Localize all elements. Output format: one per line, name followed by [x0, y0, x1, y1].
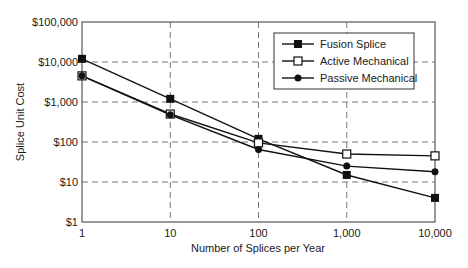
- x-tick-label: 10,000: [418, 227, 452, 239]
- line-chart: $1$10$100$1,000$10,000$100,000 1101001,0…: [0, 0, 468, 268]
- legend-label: Active Mechanical: [320, 55, 409, 67]
- filled-circle-marker: [295, 75, 302, 82]
- y-tick-label: $10,000: [38, 56, 78, 68]
- filled-circle-marker: [432, 168, 439, 175]
- filled-circle-marker: [255, 146, 262, 153]
- legend-item: Active Mechanical: [282, 55, 409, 67]
- filled-square-marker: [343, 171, 351, 179]
- x-axis-tick-labels: 1101001,00010,000: [79, 227, 452, 239]
- y-tick-label: $100,000: [32, 16, 78, 28]
- filled-circle-marker: [167, 111, 174, 118]
- filled-square-marker: [78, 55, 86, 63]
- filled-square-marker: [294, 40, 302, 48]
- y-axis-tick-labels: $1$10$100$1,000$10,000$100,000: [32, 16, 78, 228]
- y-tick-label: $1: [66, 216, 78, 228]
- y-tick-label: $1,000: [44, 96, 78, 108]
- x-tick-label: 1,000: [333, 227, 361, 239]
- y-tick-label: $10: [60, 176, 78, 188]
- filled-circle-marker: [343, 163, 350, 170]
- x-tick-label: 100: [249, 227, 267, 239]
- open-square-marker: [294, 57, 302, 65]
- open-square-marker: [255, 139, 263, 147]
- filled-square-marker: [166, 95, 174, 103]
- filled-square-marker: [431, 194, 439, 202]
- filled-circle-marker: [79, 72, 86, 79]
- y-tick-label: $100: [54, 136, 78, 148]
- x-axis-label: Number of Splices per Year: [191, 242, 325, 254]
- x-tick-label: 1: [79, 227, 85, 239]
- legend-label: Fusion Splice: [320, 38, 386, 50]
- x-tick-label: 10: [164, 227, 176, 239]
- legend: Fusion SpliceActive MechanicalPassive Me…: [274, 33, 417, 89]
- open-square-marker: [343, 150, 351, 158]
- open-square-marker: [431, 152, 439, 160]
- legend-label: Passive Mechanical: [320, 72, 417, 84]
- y-axis-label: Splice Unit Cost: [14, 83, 26, 161]
